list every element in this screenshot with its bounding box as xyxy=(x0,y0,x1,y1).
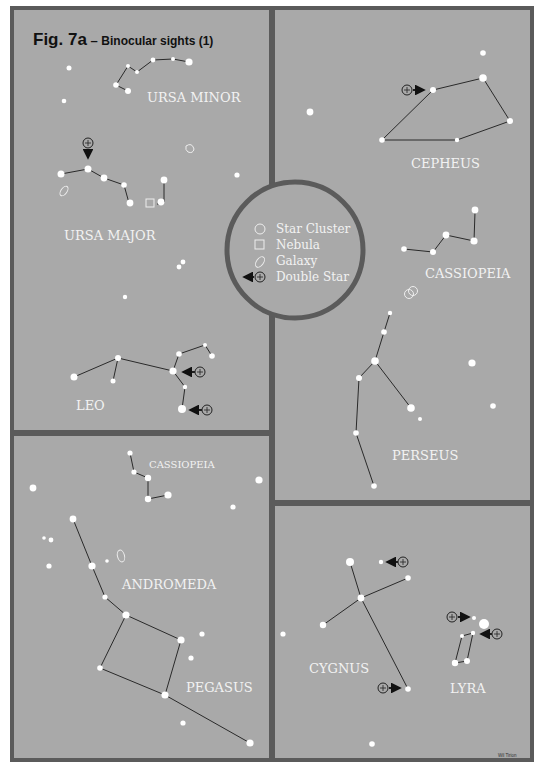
legend-label-double-star: Double Star xyxy=(276,270,349,284)
label-cassiopeia: CASSIOPEIA xyxy=(425,266,511,281)
credit-text: Wil Tirion xyxy=(498,753,517,758)
label-cepheus: CEPHEUS xyxy=(411,156,480,171)
panel-bottom-left xyxy=(14,436,269,758)
legend-label-nebula: Nebula xyxy=(276,238,320,252)
label-pegasus: PEGASUS xyxy=(186,680,253,695)
label-cassiopeia-small: CASSIOPEIA xyxy=(149,459,216,470)
label-perseus: PERSEUS xyxy=(392,448,458,463)
label-leo: LEO xyxy=(76,398,105,413)
panel-bottom-right xyxy=(275,506,530,758)
legend-label-galaxy: Galaxy xyxy=(276,254,318,268)
legend-label-star-cluster: Star Cluster xyxy=(276,222,351,236)
label-ursa-major: URSA MAJOR xyxy=(64,228,157,243)
label-cygnus: CYGNUS xyxy=(309,661,369,676)
label-lyra: LYRA xyxy=(450,681,486,696)
label-andromeda: ANDROMEDA xyxy=(121,577,217,592)
legend: Star Cluster Nebula Galaxy Double Star xyxy=(227,182,363,318)
label-ursa-minor: URSA MINOR xyxy=(147,90,242,105)
panel-top-left xyxy=(14,10,269,430)
binocular-sights-chart: Star Cluster Nebula Galaxy Double Star F… xyxy=(0,0,544,776)
